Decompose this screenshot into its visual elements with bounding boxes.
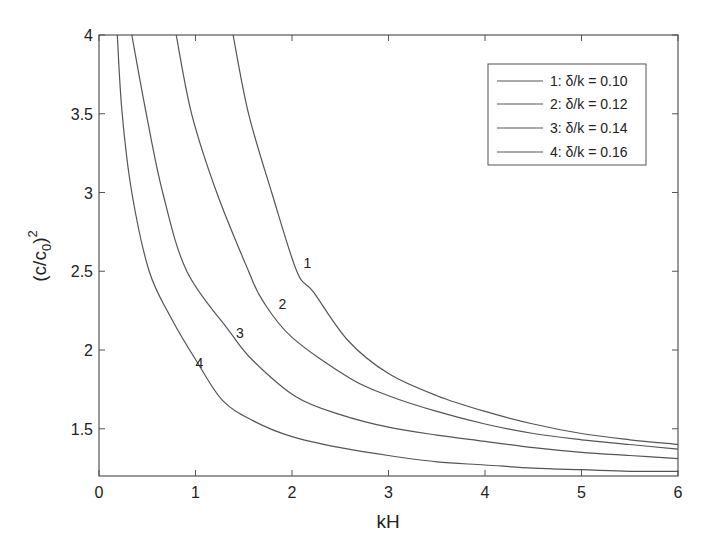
y-label-subscript: 0 bbox=[39, 244, 54, 251]
x-axis-label: kH bbox=[376, 511, 399, 532]
x-tick-label: 3 bbox=[384, 484, 393, 501]
y-label-base: (c/c bbox=[29, 251, 50, 282]
svg-text:(c/c0)2: (c/c0)2 bbox=[25, 230, 54, 281]
y-tick-label: 3.5 bbox=[71, 106, 93, 123]
curve-label-2: 2 bbox=[278, 296, 286, 312]
x-tick-label: 2 bbox=[288, 484, 297, 501]
line-chart: 0123456 1.522.533.54 1234 kH (c/c0)2 1: … bbox=[0, 0, 709, 557]
y-tick-label: 2.5 bbox=[71, 263, 93, 280]
x-tick-label: 0 bbox=[95, 484, 104, 501]
curve-label-3: 3 bbox=[236, 325, 244, 341]
y-tick-label: 1.5 bbox=[71, 421, 93, 438]
x-tick-label: 5 bbox=[577, 484, 586, 501]
y-axis-label: (c/c0)2 bbox=[25, 230, 54, 281]
x-tick-label: 4 bbox=[481, 484, 490, 501]
curve-labels: 1234 bbox=[196, 255, 312, 370]
y-tick-label: 3 bbox=[84, 185, 93, 202]
curve-label-4: 4 bbox=[196, 355, 204, 371]
y-label-superscript: 2 bbox=[25, 230, 40, 237]
y-tick-label: 4 bbox=[84, 27, 93, 44]
legend: 1: δ/k = 0.10 2: δ/k = 0.12 3: δ/k = 0.1… bbox=[488, 64, 646, 165]
legend-label: 1: δ/k = 0.10 bbox=[550, 73, 628, 89]
x-tick-label: 6 bbox=[674, 484, 683, 501]
legend-label: 2: δ/k = 0.12 bbox=[550, 96, 628, 112]
curve-label-1: 1 bbox=[304, 255, 312, 271]
y-tick-label: 2 bbox=[84, 342, 93, 359]
legend-label: 3: δ/k = 0.14 bbox=[550, 120, 628, 136]
legend-label: 4: δ/k = 0.16 bbox=[550, 144, 628, 160]
x-tick-label: 1 bbox=[191, 484, 200, 501]
